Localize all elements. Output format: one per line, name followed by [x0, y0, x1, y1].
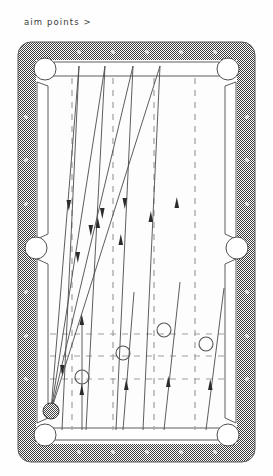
- diamond-marker: [77, 450, 81, 454]
- diamond-marker: [213, 450, 217, 454]
- pocket-bottom-left: [34, 424, 56, 446]
- cushion-right-lower: [225, 259, 236, 423]
- diamond-marker: [245, 158, 249, 162]
- cue-ball-marker: [43, 403, 59, 419]
- diamond-marker: [24, 202, 28, 206]
- diamond-marker: [245, 334, 249, 338]
- table-cloth: [36, 60, 237, 444]
- diamond-marker: [245, 290, 249, 294]
- pool-table-diagram: [0, 0, 273, 476]
- diamond-marker: [111, 50, 115, 54]
- diamond-marker: [245, 377, 249, 381]
- diamond-marker: [24, 377, 28, 381]
- pocket-right-side: [226, 237, 248, 259]
- cue-ball: [43, 403, 59, 419]
- diamond-marker: [145, 50, 149, 54]
- cushion-left-upper: [37, 82, 48, 239]
- diamond-marker: [24, 290, 28, 294]
- pocket-top-left: [34, 58, 56, 80]
- cushion-left-lower: [37, 259, 48, 423]
- diamond-marker: [24, 115, 28, 119]
- cushion-bottom: [49, 428, 226, 440]
- diamond-marker: [245, 202, 249, 206]
- diamond-marker: [179, 50, 183, 54]
- cushion-right-upper: [225, 82, 236, 239]
- diamond-marker: [24, 158, 28, 162]
- diamond-marker: [111, 450, 115, 454]
- diamond-marker: [245, 115, 249, 119]
- pocket-left-side: [25, 237, 47, 259]
- diamond-marker: [145, 450, 149, 454]
- cushion-top: [49, 62, 226, 76]
- diamond-marker: [179, 450, 183, 454]
- diagram-page: aim points >: [0, 0, 273, 476]
- pocket-top-right: [217, 58, 239, 80]
- diamond-marker: [213, 50, 217, 54]
- diamond-marker: [24, 334, 28, 338]
- pocket-bottom-right: [217, 424, 239, 446]
- diamond-marker: [77, 50, 81, 54]
- cloth-surface: [36, 60, 237, 444]
